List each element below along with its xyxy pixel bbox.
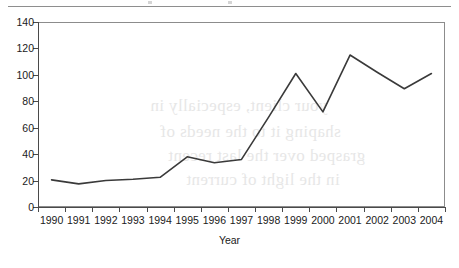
- line-chart-figure: your client, especially in shaping it to…: [0, 0, 459, 268]
- x-axis-title: Year: [0, 234, 459, 246]
- data-series-line: [0, 0, 459, 268]
